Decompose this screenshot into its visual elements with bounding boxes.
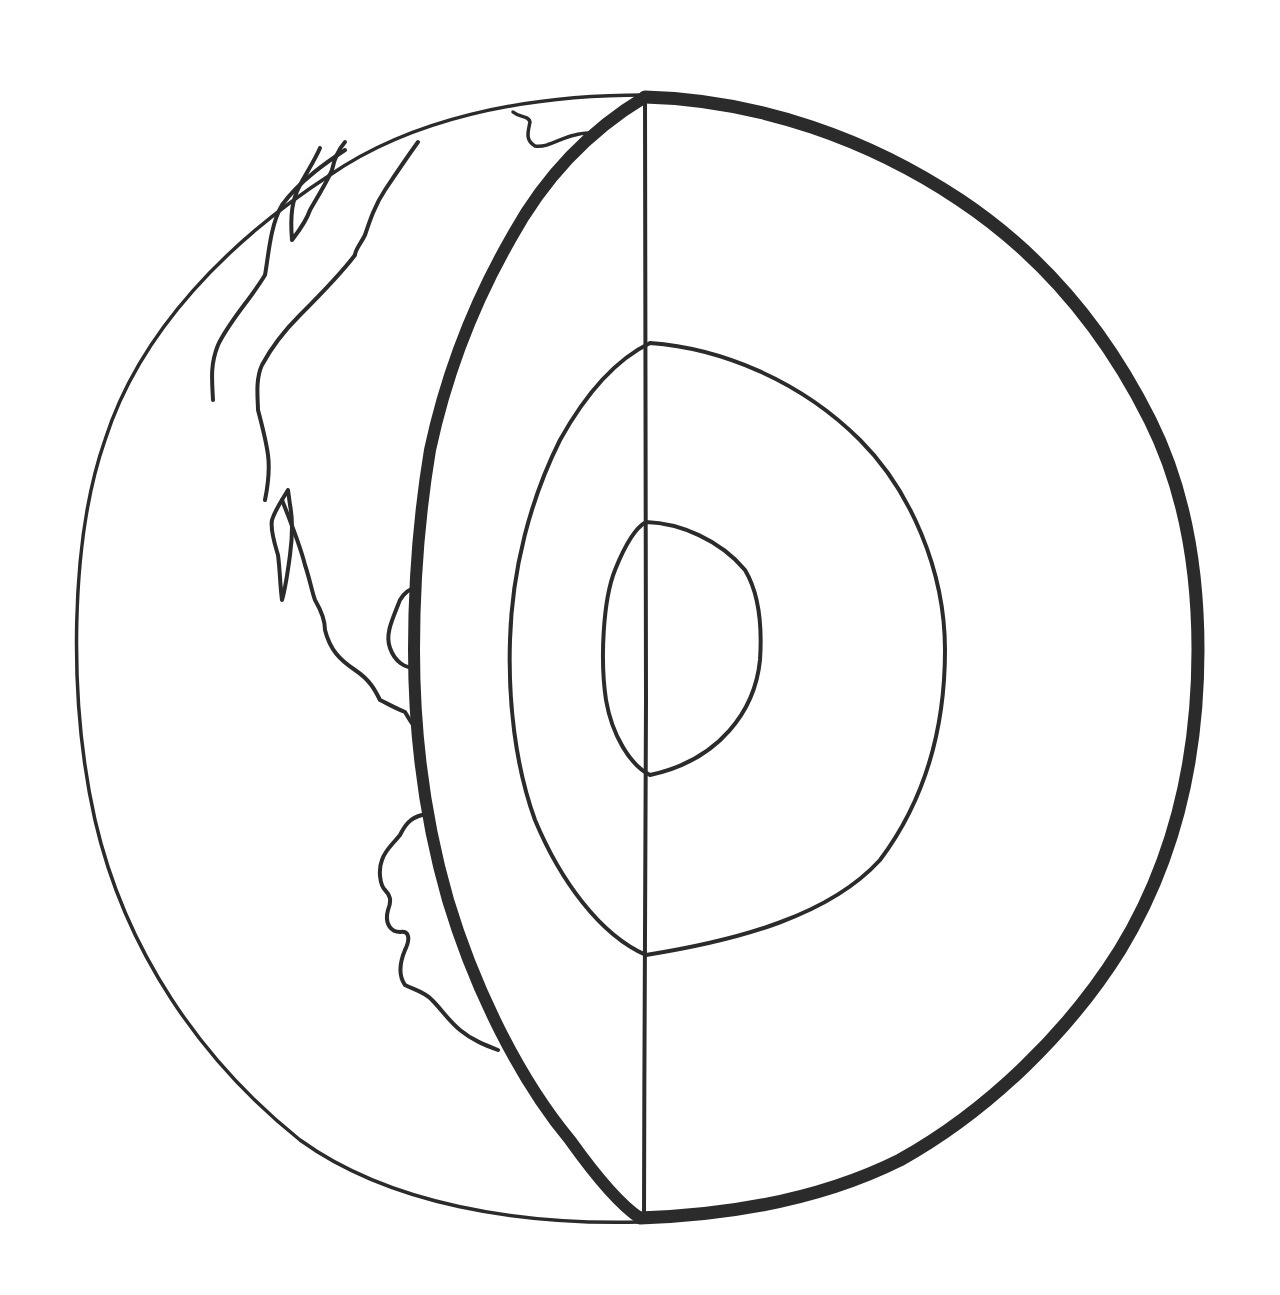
cutaway-rim-inner	[414, 97, 645, 1218]
earth-layers-diagram	[0, 0, 1280, 1295]
diagram-svg	[0, 0, 1280, 1295]
continent-coastline-peninsula	[291, 142, 345, 240]
continent-coastline-west	[257, 142, 418, 500]
cutaway-rim-outer	[640, 97, 1198, 1218]
inner-core	[603, 522, 761, 775]
cut-axis	[644, 97, 646, 1218]
mantle-boundary	[510, 343, 945, 955]
continent-coastline-inlet	[272, 490, 292, 600]
continent-coastline-southwest	[282, 500, 418, 730]
globe-outline	[77, 95, 645, 1222]
